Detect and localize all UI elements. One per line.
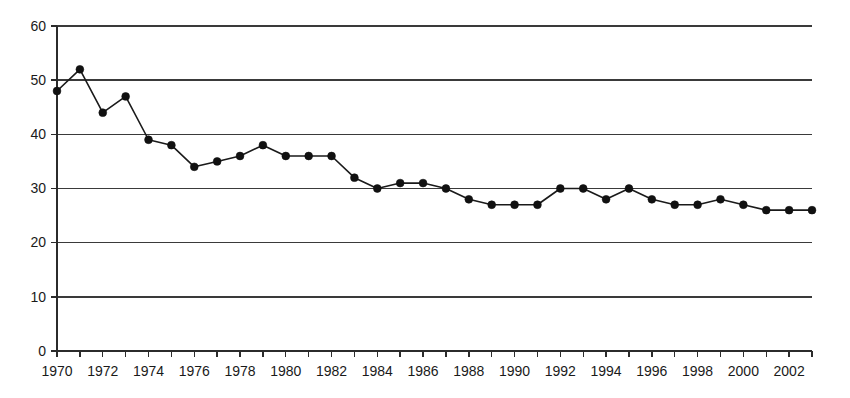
x-tick-label-1988: 1988 — [453, 363, 484, 379]
data-point-1995 — [625, 185, 633, 193]
data-point-2003 — [808, 206, 816, 214]
data-point-1977 — [213, 158, 221, 166]
data-point-1973 — [122, 93, 130, 101]
data-point-2001 — [762, 206, 770, 214]
y-tick-label-0: 0 — [38, 343, 46, 359]
y-tick-label-30: 30 — [30, 180, 46, 196]
line-chart: 0102030405060 19701972197419761978198019… — [0, 0, 850, 398]
x-tick-label-1992: 1992 — [545, 363, 576, 379]
x-tick-label-1970: 1970 — [41, 363, 72, 379]
chart-canvas: 0102030405060 19701972197419761978198019… — [0, 0, 850, 398]
x-tick-label-1980: 1980 — [270, 363, 301, 379]
x-tick-label-1996: 1996 — [636, 363, 667, 379]
x-tick-label-1978: 1978 — [224, 363, 255, 379]
y-tick-label-50: 50 — [30, 72, 46, 88]
data-point-1980 — [282, 152, 290, 160]
data-point-1985 — [396, 179, 404, 187]
x-tick-label-1994: 1994 — [591, 363, 622, 379]
data-point-1983 — [351, 174, 359, 182]
data-point-1989 — [488, 201, 496, 209]
data-point-1976 — [190, 163, 198, 171]
data-point-1994 — [602, 195, 610, 203]
data-point-1981 — [305, 152, 313, 160]
data-point-1999 — [717, 195, 725, 203]
x-axis-tick-labels: 1970197219741976197819801982198419861988… — [41, 363, 804, 379]
data-point-1978 — [236, 152, 244, 160]
gridlines — [57, 26, 812, 351]
data-point-2000 — [739, 201, 747, 209]
data-point-1992 — [556, 185, 564, 193]
x-tick-label-2002: 2002 — [774, 363, 805, 379]
data-point-1975 — [167, 141, 175, 149]
x-tick-label-2000: 2000 — [728, 363, 759, 379]
data-point-1971 — [76, 65, 84, 73]
data-point-1974 — [145, 136, 153, 144]
y-axis-tick-labels: 0102030405060 — [30, 18, 57, 359]
data-point-1990 — [511, 201, 519, 209]
x-tick-label-1990: 1990 — [499, 363, 530, 379]
x-tick-label-1984: 1984 — [362, 363, 393, 379]
x-tick-label-1972: 1972 — [87, 363, 118, 379]
x-tick-label-1976: 1976 — [179, 363, 210, 379]
x-tick-label-1974: 1974 — [133, 363, 164, 379]
data-point-1991 — [534, 201, 542, 209]
data-point-1998 — [694, 201, 702, 209]
y-tick-label-10: 10 — [30, 289, 46, 305]
data-point-1984 — [373, 185, 381, 193]
y-tick-label-40: 40 — [30, 126, 46, 142]
data-point-1982 — [328, 152, 336, 160]
data-point-1987 — [442, 185, 450, 193]
x-tick-label-1982: 1982 — [316, 363, 347, 379]
data-point-1986 — [419, 179, 427, 187]
data-point-1972 — [99, 109, 107, 117]
data-point-2002 — [785, 206, 793, 214]
series-markers — [53, 65, 816, 214]
data-point-1979 — [259, 141, 267, 149]
data-point-1997 — [671, 201, 679, 209]
data-point-1993 — [579, 185, 587, 193]
y-tick-label-20: 20 — [30, 234, 46, 250]
x-tick-label-1998: 1998 — [682, 363, 713, 379]
data-point-1996 — [648, 195, 656, 203]
y-tick-label-60: 60 — [30, 18, 46, 34]
x-tick-label-1986: 1986 — [407, 363, 438, 379]
data-point-1970 — [53, 87, 61, 95]
data-point-1988 — [465, 195, 473, 203]
